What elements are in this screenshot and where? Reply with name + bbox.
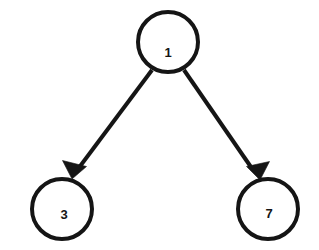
node-label-3: 3 bbox=[60, 207, 67, 222]
node-label-1: 1 bbox=[164, 45, 171, 60]
node-circle-1 bbox=[138, 12, 198, 72]
node-left-3[interactable]: 3 bbox=[32, 179, 92, 239]
graph-svg: 1 3 7 bbox=[0, 0, 319, 250]
node-right-7[interactable]: 7 bbox=[238, 179, 298, 239]
edge-root-to-left[interactable] bbox=[0, 0, 152, 179]
diagram-canvas: 1 3 7 bbox=[0, 0, 319, 250]
node-root-1[interactable]: 1 bbox=[138, 12, 198, 72]
nodes-group: 1 3 7 bbox=[32, 12, 298, 239]
node-label-7: 7 bbox=[265, 206, 272, 221]
edges-group bbox=[0, 0, 270, 180]
edge-line-1-7 bbox=[184, 70, 253, 170]
edge-root-to-right[interactable] bbox=[184, 70, 270, 180]
edge-line-1-3 bbox=[78, 70, 152, 169]
